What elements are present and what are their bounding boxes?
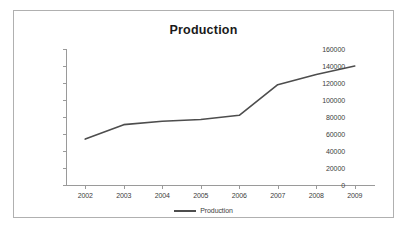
x-axis-tick-label: 2006 [232,192,247,199]
x-axis-tick-label: 2007 [270,192,285,199]
y-axis-tick-mark [63,83,66,84]
y-axis-tick-mark [63,151,66,152]
chart-title: Production [14,23,393,37]
x-axis-tick-label: 2005 [193,192,208,199]
y-axis-tick-mark [63,168,66,169]
y-axis-tick-label: 20000 [326,165,345,172]
x-axis-tick-mark [124,186,125,189]
x-axis-tick-label: 2008 [309,192,324,199]
x-axis-tick-mark [316,186,317,189]
series-line-production [85,66,355,139]
x-axis-tick-mark [85,186,86,189]
y-axis-tick-mark [63,49,66,50]
x-axis-tick-mark [355,186,356,189]
y-axis-tick-label: 160000 [322,46,345,53]
x-axis-tick-labels: 20022003200420052006200720082009 [66,186,375,208]
y-axis-tick-mark [63,134,66,135]
y-axis-tick-mark [63,117,66,118]
y-axis-tick-label: 0 [341,182,345,189]
x-axis-tick-mark [201,186,202,189]
chart-container: Production 20022003200420052006200720082… [13,10,394,218]
y-axis-tick-label: 120000 [322,80,345,87]
legend-line-swatch [174,210,196,212]
legend-label-production: Production [200,207,232,214]
x-axis-tick-mark [239,186,240,189]
y-axis-tick-label: 140000 [322,63,345,70]
x-axis-tick-label: 2002 [78,192,93,199]
x-axis-tick-mark [162,186,163,189]
x-axis-tick-label: 2003 [116,192,131,199]
y-axis-tick-label: 40000 [326,148,345,155]
chart-legend: Production [14,207,393,214]
x-axis-tick-mark [278,186,279,189]
y-axis-tick-label: 60000 [326,131,345,138]
y-axis-tick-label: 100000 [322,97,345,104]
x-axis-tick-label: 2004 [155,192,170,199]
y-axis-tick-mark [63,66,66,67]
y-axis-tick-mark [63,100,66,101]
y-axis-tick-mark [63,185,66,186]
y-axis-tick-label: 80000 [326,114,345,121]
x-axis-tick-label: 2009 [347,192,362,199]
